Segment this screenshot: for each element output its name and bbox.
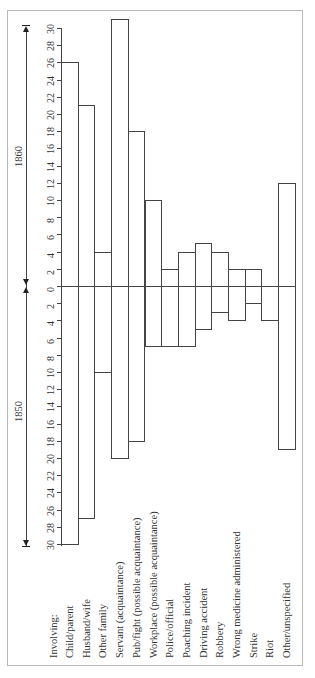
category-label: Riot — [264, 640, 276, 658]
bar-1860 — [228, 269, 246, 287]
axis-tick-label: 14 — [45, 162, 57, 172]
bar-1860 — [128, 131, 146, 287]
bar-1850 — [78, 286, 96, 519]
bar-1860 — [178, 252, 196, 287]
bar-1850 — [128, 286, 146, 442]
bar-1860 — [161, 269, 179, 287]
arrow-cap — [22, 546, 30, 547]
range-line-1860 — [26, 28, 27, 286]
bar-1860 — [278, 183, 296, 287]
axis-tick — [57, 45, 61, 46]
axis-tick-label: 18 — [45, 127, 57, 137]
category-label: Other/unspecified — [281, 583, 293, 658]
category-label: Driving accident — [198, 588, 210, 658]
axis-tick-label: 20 — [45, 110, 57, 120]
bar-1860 — [195, 243, 213, 287]
bar-1850 — [261, 286, 279, 321]
axis-tick-label: 26 — [45, 506, 57, 516]
axis-tick-label: 28 — [45, 41, 57, 51]
category-label: Husband/wife — [81, 599, 93, 658]
category-label: Workplace (possible acquaintance) — [148, 511, 160, 658]
axis-tick-label: 20 — [45, 454, 57, 464]
category-label: Wrong medicine administered — [231, 531, 243, 658]
axis-tick-label: 10 — [45, 368, 57, 378]
category-label: Other family — [97, 604, 109, 658]
axis-tick-label: 12 — [45, 179, 57, 189]
bar-1860 — [245, 269, 263, 287]
axis-tick-label: 0 — [45, 287, 57, 292]
bar-1860 — [211, 252, 229, 287]
bar-1850 — [61, 286, 79, 545]
axis-tick-label: 22 — [45, 471, 57, 481]
bar-1860 — [61, 62, 79, 287]
arrow-down-icon — [23, 279, 29, 285]
bar-1850 — [228, 286, 246, 321]
category-label: Pub/fight (possible acquaintance) — [131, 517, 143, 658]
axis-tick-label: 24 — [45, 488, 57, 498]
axis-tick-label: 30 — [45, 24, 57, 34]
axis-tick-label: 12 — [45, 385, 57, 395]
axis-tick — [57, 28, 61, 29]
bar-1850 — [278, 286, 296, 450]
axis-tick-label: 22 — [45, 93, 57, 103]
bar-1850 — [94, 286, 112, 373]
axis-tick-label: 6 — [45, 235, 57, 240]
range-line-1850 — [26, 286, 27, 546]
bar-1860 — [111, 19, 129, 287]
bar-1850 — [111, 286, 129, 459]
axis-tick-label: 10 — [45, 196, 57, 206]
year-label-1860: 1860 — [13, 146, 25, 167]
axis-tick-label: 4 — [45, 321, 57, 326]
axis-tick-label: 6 — [45, 339, 57, 344]
arrow-up-icon — [23, 26, 29, 32]
axis-tick-label: 28 — [45, 523, 57, 533]
axis-tick-label: 2 — [45, 304, 57, 309]
bar-1850 — [245, 286, 263, 304]
axis-tick-label: 8 — [45, 356, 57, 361]
category-label: Police/official — [164, 599, 176, 658]
bar-1850 — [178, 286, 196, 347]
axis-tick-label: 16 — [45, 420, 57, 430]
axis-tick-label: 2 — [45, 270, 57, 275]
bar-1860 — [145, 200, 163, 287]
category-label: Servant (acquaintance) — [114, 562, 126, 659]
axis-tick-label: 8 — [45, 218, 57, 223]
axis-tick-label: 30 — [45, 540, 57, 550]
category-label: Child/parent — [64, 606, 76, 659]
involving-label: Involving: — [48, 614, 60, 658]
axis-tick-label: 18 — [45, 437, 57, 447]
axis-tick-label: 24 — [45, 76, 57, 86]
bar-1850 — [145, 286, 163, 347]
bar-1850 — [211, 286, 229, 313]
category-label: Robbery — [214, 622, 226, 658]
bar-1850 — [195, 286, 213, 330]
category-label: Poaching incident — [181, 582, 193, 658]
bar-1850 — [161, 286, 179, 347]
bar-1860 — [94, 252, 112, 287]
year-label-1850: 1850 — [13, 401, 25, 422]
axis-tick-label: 14 — [45, 402, 57, 412]
bar-1860 — [78, 105, 96, 287]
axis-tick-label: 16 — [45, 144, 57, 154]
axis-tick-label: 26 — [45, 58, 57, 68]
axis-tick-label: 4 — [45, 253, 57, 258]
category-label: Strike — [248, 633, 260, 658]
arrow-up-icon — [23, 287, 29, 293]
